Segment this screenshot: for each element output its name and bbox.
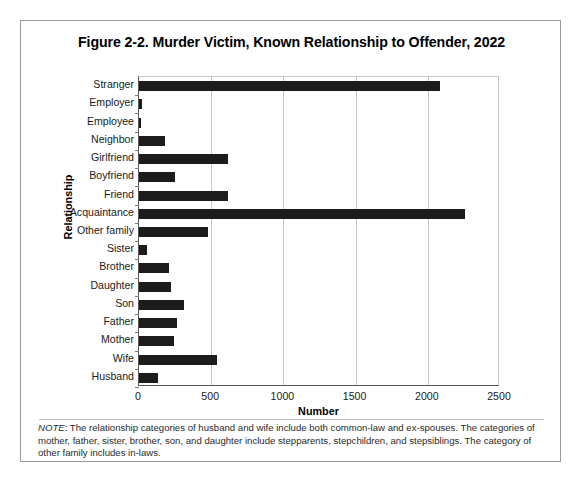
bar <box>139 81 440 91</box>
y-tick-mark <box>135 150 139 151</box>
plot-wrapper: Relationship StrangerEmployerEmployeeNei… <box>21 21 562 463</box>
bar <box>139 263 169 273</box>
bar <box>139 355 217 365</box>
y-tick-mark <box>135 186 139 187</box>
x-axis-tick-labels: 05001000150020002500 <box>138 390 499 406</box>
y-tick-mark <box>135 205 139 206</box>
y-axis-category-label: Mother <box>24 333 134 345</box>
bar <box>139 154 228 164</box>
x-axis-tick-label: 2500 <box>487 390 511 402</box>
y-tick-mark <box>135 113 139 114</box>
x-axis-tick-label: 2000 <box>415 390 439 402</box>
bar <box>139 136 165 146</box>
note-lead: NOTE <box>38 422 65 433</box>
y-axis-category-label: Employee <box>24 115 134 127</box>
x-axis-tick-label: 1000 <box>271 390 295 402</box>
bar <box>139 318 177 328</box>
figure-note: NOTE: The relationship categories of hus… <box>38 422 546 460</box>
y-tick-mark <box>135 132 139 133</box>
y-tick-mark <box>135 95 139 96</box>
y-axis-category-label: Friend <box>24 188 134 200</box>
y-axis-category-label: Stranger <box>24 78 134 90</box>
y-axis-category-label: Wife <box>24 352 134 364</box>
y-tick-mark <box>135 296 139 297</box>
y-tick-mark <box>135 387 139 388</box>
y-tick-mark <box>135 314 139 315</box>
bar <box>139 99 142 109</box>
y-axis-category-label: Father <box>24 315 134 327</box>
x-axis-tick-label: 1500 <box>343 390 367 402</box>
bar-series <box>139 77 498 385</box>
bar <box>139 191 228 201</box>
y-axis-category-label: Employer <box>24 96 134 108</box>
bar <box>139 172 175 182</box>
bar <box>139 300 184 310</box>
y-axis-category-label: Daughter <box>24 279 134 291</box>
y-tick-mark <box>135 351 139 352</box>
y-tick-mark <box>135 223 139 224</box>
y-axis-category-label: Son <box>24 297 134 309</box>
plot-area <box>138 76 499 386</box>
bar <box>139 245 147 255</box>
y-axis-category-label: Boyfriend <box>24 169 134 181</box>
x-axis-tick-label: 0 <box>135 390 141 402</box>
note-body: : The relationship categories of husband… <box>38 422 535 458</box>
y-axis-category-label: Girlfriend <box>24 151 134 163</box>
y-axis-category-label: Husband <box>24 370 134 382</box>
y-tick-mark <box>135 168 139 169</box>
x-axis-tick-label: 500 <box>201 390 219 402</box>
bar <box>139 282 171 292</box>
y-tick-mark <box>135 278 139 279</box>
y-tick-mark <box>135 332 139 333</box>
y-axis-category-label: Brother <box>24 260 134 272</box>
chart-page: Figure 2-2. Murder Victim, Known Relatio… <box>0 0 581 483</box>
note-divider <box>39 419 544 420</box>
y-tick-mark <box>135 369 139 370</box>
y-tick-mark <box>135 241 139 242</box>
bar <box>139 209 465 219</box>
y-axis-tick-labels: StrangerEmployerEmployeeNeighborGirlfrie… <box>24 76 134 386</box>
bar <box>139 118 141 128</box>
y-axis-category-label: Acquaintance <box>24 206 134 218</box>
y-axis-category-label: Sister <box>24 242 134 254</box>
bar <box>139 227 208 237</box>
bar <box>139 336 174 346</box>
y-axis-category-label: Other family <box>24 224 134 236</box>
figure-frame: Figure 2-2. Murder Victim, Known Relatio… <box>20 20 561 462</box>
x-axis-title: Number <box>138 405 499 417</box>
y-axis-category-label: Neighbor <box>24 133 134 145</box>
bar <box>139 373 158 383</box>
y-tick-mark <box>135 259 139 260</box>
